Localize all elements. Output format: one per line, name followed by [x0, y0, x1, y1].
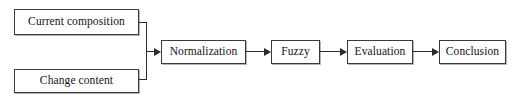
node-change-content[interactable]: Change content: [14, 69, 139, 93]
arrowhead-icon-to-fuzzy: [264, 48, 271, 56]
node-fuzzy[interactable]: Fuzzy: [271, 40, 320, 64]
connector-fuzzy-to-evaluation: [320, 51, 341, 52]
node-fuzzy-label: Fuzzy: [277, 46, 314, 58]
arrowhead-icon-to-evaluation: [340, 48, 347, 56]
node-evaluation-label: Evaluation: [351, 46, 410, 58]
node-normalization-label: Normalization: [166, 46, 242, 58]
arrowhead-icon-to-conclusion: [432, 48, 439, 56]
node-change-content-label: Change content: [36, 75, 117, 87]
node-conclusion-label: Conclusion: [442, 46, 503, 58]
flowchart-canvas: Current composition Change content Norma…: [0, 0, 522, 99]
connector-evaluation-to-conclusion: [413, 51, 433, 52]
node-evaluation[interactable]: Evaluation: [347, 40, 413, 64]
arrowhead-icon-to-normalization: [154, 48, 161, 56]
node-conclusion[interactable]: Conclusion: [439, 40, 506, 64]
node-current-composition[interactable]: Current composition: [14, 9, 139, 35]
node-normalization[interactable]: Normalization: [161, 40, 246, 64]
node-current-composition-label: Current composition: [24, 16, 129, 28]
connector-normalization-to-fuzzy: [246, 51, 265, 52]
